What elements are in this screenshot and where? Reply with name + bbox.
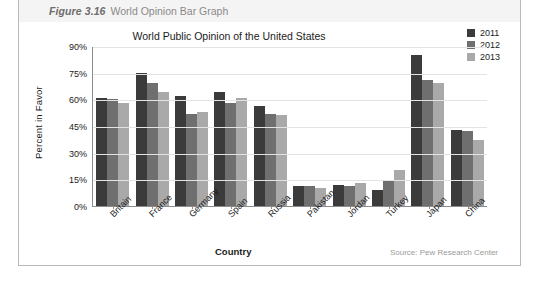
- bar[interactable]: [147, 83, 158, 206]
- y-axis-tick-label: 90%: [69, 42, 87, 52]
- legend-label: 2011: [480, 28, 499, 38]
- bar[interactable]: [422, 80, 433, 206]
- gridline: [93, 100, 487, 101]
- gridline: [93, 154, 487, 155]
- gridline: [93, 180, 487, 181]
- chart-container: World Public Opinion of the United State…: [19, 22, 520, 265]
- bar[interactable]: [96, 98, 107, 206]
- gridline: [93, 47, 487, 48]
- gridline: [93, 74, 487, 75]
- y-axis-title: Percent in Favor: [33, 68, 44, 178]
- bar[interactable]: [433, 83, 444, 206]
- bar[interactable]: [293, 186, 304, 206]
- bar[interactable]: [136, 73, 147, 206]
- source-note: Source: Pew Research Center: [390, 248, 498, 257]
- figure-caption: Figure 3.16 World Opinion Bar Graph: [19, 0, 520, 22]
- y-axis-tick-label: 75%: [69, 69, 87, 79]
- bar[interactable]: [236, 98, 247, 206]
- legend-swatch-icon: [467, 29, 475, 37]
- chart-title: World Public Opinion of the United State…: [19, 30, 439, 42]
- figure-number: Figure 3.16: [49, 5, 106, 17]
- y-axis-tick-label: 60%: [69, 95, 87, 105]
- gridline: [93, 127, 487, 128]
- bar[interactable]: [372, 190, 383, 206]
- y-axis-tick-label: 30%: [69, 149, 87, 159]
- plot-area: 0%15%30%45%60%75%90%: [92, 47, 487, 207]
- x-axis-title: Country: [215, 246, 251, 257]
- y-axis-tick-label: 15%: [69, 175, 87, 185]
- figure-caption-text: World Opinion Bar Graph: [111, 5, 229, 17]
- bar[interactable]: [451, 130, 462, 206]
- figure-page: Figure 3.16 World Opinion Bar Graph Worl…: [0, 0, 537, 286]
- legend-item-2011[interactable]: 2011: [467, 28, 500, 38]
- y-axis-tick-label: 45%: [69, 122, 87, 132]
- bar[interactable]: [158, 92, 169, 206]
- y-axis-tick-label: 0%: [74, 202, 87, 212]
- bar[interactable]: [462, 131, 473, 206]
- bar[interactable]: [254, 106, 265, 206]
- bar[interactable]: [411, 55, 422, 206]
- bar[interactable]: [175, 96, 186, 206]
